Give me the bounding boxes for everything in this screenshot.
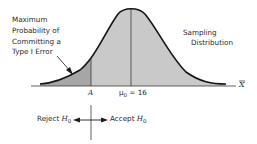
annotation-line: Maximum [12,15,61,26]
hypothesis-test-diagram: Maximum Probability of Committing a Type… [0,0,257,144]
accept-arrow-head [101,118,108,123]
x-bar-label: X [239,80,245,91]
curve-label-line: Sampling [183,28,233,38]
type-i-error-annotation: Maximum Probability of Committing a Type… [12,15,61,58]
mean-label: μ0 = 16 [119,88,147,101]
sampling-distribution-label: Sampling Distribution [183,28,233,48]
annotation-arrow-head [66,67,73,75]
annotation-line: Type I Error [12,47,61,58]
hypothesis-subscript: 0 [68,118,72,124]
annotation-line: Committing a [12,37,61,48]
critical-value-label: A [88,88,93,99]
annotation-line: Probability of [12,26,61,37]
reject-arrow-head [73,118,80,123]
accept-text: Accept [110,114,137,123]
accept-h0-label: Accept H0 [110,114,147,127]
reject-h0-label: Reject H0 [37,114,71,127]
curve-label-line: Distribution [183,38,233,48]
hypothesis-subscript: 0 [143,118,147,124]
rejection-region [40,58,91,86]
reject-text: Reject [37,114,62,123]
mean-value: = 16 [127,88,147,97]
